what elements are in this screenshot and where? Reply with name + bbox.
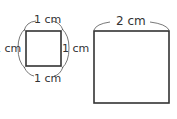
large-top-label: 2 cm: [116, 14, 146, 28]
small-top-label: 1 cm: [34, 13, 61, 26]
small-bottom-label: 1 cm: [34, 72, 61, 85]
small-square: [26, 31, 61, 66]
small-left-label: 1 cm: [0, 42, 21, 55]
squares-diagram: 1 cm 1 cm 1 cm 1 cm 2 cm: [0, 0, 177, 119]
small-right-label: 1 cm: [62, 42, 89, 55]
large-square: [94, 31, 169, 103]
